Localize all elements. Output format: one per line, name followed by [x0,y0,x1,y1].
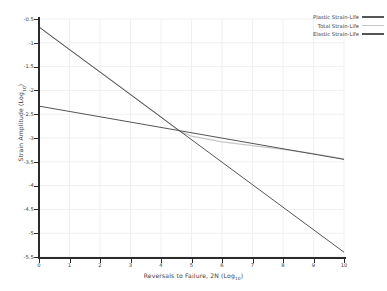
y-tick-label: -0.5 [0,16,34,22]
series-line [39,27,344,252]
x-tick-mark [344,259,345,263]
y-tick-mark [34,233,38,234]
y-tick-mark [34,90,38,91]
x-tick-mark [314,259,315,263]
x-tick-mark [100,259,101,263]
x-tick-mark [283,259,284,263]
legend-item[interactable]: Total Strain-Life [296,22,384,30]
legend-swatch-icon [362,25,384,27]
y-tick-mark [34,67,38,68]
legend-label: Elastic Strain-Life [313,31,359,37]
y-axis-label: Strain Amplitude (Log10) [17,43,26,203]
y-tick-label: -5.5 [0,254,34,260]
x-axis-label: Reversals to Failure, 2N (Log10) [0,272,387,281]
series-line [39,106,344,159]
series-lines [39,19,344,257]
y-tick-mark [34,257,38,258]
y-tick-mark [34,114,38,115]
y-tick-label: -5 [0,230,34,236]
x-tick-mark [39,259,40,263]
x-tick-mark [192,259,193,263]
x-tick-mark [161,259,162,263]
y-tick-mark [34,162,38,163]
legend-item[interactable]: Plastic Strain-Life [296,13,384,21]
chart-figure: -0.5-1-1.5-2-2.5-3-3.5-4-4.5-5-5.5 01234… [0,0,387,291]
chart-legend: Plastic Strain-LifeTotal Strain-LifeElas… [296,13,384,39]
legend-label: Plastic Strain-Life [313,14,359,20]
y-tick-mark [34,209,38,210]
y-tick-mark [34,138,38,139]
legend-label: Total Strain-Life [318,23,359,29]
plot-area [39,19,344,257]
y-tick-label: -4.5 [0,206,34,212]
legend-item[interactable]: Elastic Strain-Life [296,30,384,38]
y-axis-spine [38,17,40,259]
legend-swatch-icon [362,16,384,17]
x-tick-mark [253,259,254,263]
x-tick-mark [70,259,71,263]
y-tick-mark [34,19,38,20]
y-tick-mark [34,43,38,44]
x-tick-mark [131,259,132,263]
x-tick-mark [222,259,223,263]
legend-swatch-icon [362,33,384,34]
y-tick-mark [34,186,38,187]
